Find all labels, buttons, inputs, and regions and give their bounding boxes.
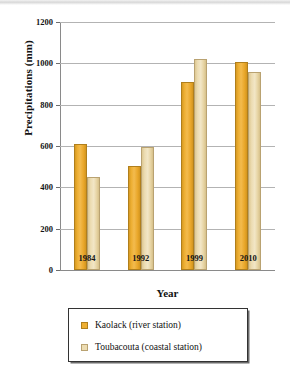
chart-legend: Kaolack (river station)Toubacouta (coast…: [68, 308, 248, 362]
y-axis-tick-label: 1000: [36, 58, 53, 68]
legend-swatch-icon: [81, 344, 88, 351]
legend-item-series1: Toubacouta (coastal station): [81, 336, 247, 358]
y-axis-tick-label: 400: [40, 182, 53, 192]
legend-label: Toubacouta (coastal station): [95, 342, 202, 352]
y-axis-title: Precipitations (mm): [22, 0, 34, 178]
legend-label: Kaolack (river station): [95, 320, 181, 330]
bar-1999-series0: [181, 82, 194, 270]
legend-swatch-icon: [81, 322, 88, 329]
x-axis-tick-label-1992: 1992: [132, 253, 149, 263]
gridline: [60, 270, 275, 271]
y-axis-tick: [56, 187, 60, 188]
bar-2010-series1: [248, 72, 261, 270]
bar-1984-series0: [74, 144, 87, 270]
y-axis-tick-label: 800: [40, 100, 53, 110]
x-axis-tick-label-1984: 1984: [78, 253, 95, 263]
x-axis-title: Year: [60, 287, 275, 299]
x-axis-tick-label-1999: 1999: [186, 253, 203, 263]
precipitation-bar-chart: Precipitations (mm) 02004006008001000120…: [0, 0, 290, 376]
y-axis-tick-label: 1200: [36, 17, 53, 27]
y-axis-tick: [56, 270, 60, 271]
bar-2010-series0: [235, 62, 248, 270]
legend-item-series0: Kaolack (river station): [81, 314, 247, 336]
bar-1999-series1: [194, 59, 207, 270]
plot-area: 020040060080010001200: [60, 22, 275, 270]
y-axis-tick: [56, 229, 60, 230]
y-axis-tick: [56, 105, 60, 106]
y-axis-tick: [56, 22, 60, 23]
gridline: [60, 22, 275, 23]
y-axis-tick-label: 0: [49, 265, 53, 275]
y-axis-tick-label: 600: [40, 141, 53, 151]
y-axis-tick-label: 200: [40, 224, 53, 234]
y-axis-tick: [56, 146, 60, 147]
x-axis-tick-label-2010: 2010: [240, 253, 257, 263]
y-axis-tick: [56, 63, 60, 64]
bar-1992-series1: [141, 147, 154, 270]
